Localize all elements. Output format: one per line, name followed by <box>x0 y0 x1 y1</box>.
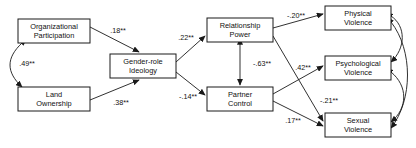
path-diagram-canvas: Organizational Participation Land Owners… <box>0 0 416 148</box>
node-label-partner-control-line1: Partner <box>228 90 253 99</box>
coefficient-relpower-to-physical: -.20** <box>287 11 305 20</box>
node-label-partner-control-line2: Control <box>228 99 252 108</box>
coefficient-partnerctrl-to-sexual: .17** <box>285 116 301 125</box>
node-label-relationship-power-line1: Relationship <box>220 21 261 30</box>
node-organizational-participation: Organizational Participation <box>18 19 90 43</box>
coefficient-partnerctrl-to-psychological: .42** <box>295 63 311 72</box>
arrow-relpower-to-sexual <box>273 36 323 121</box>
node-gender-role-ideology: Gender-role Ideology <box>110 54 176 78</box>
node-label-organizational-participation-line1: Organizational <box>30 22 78 31</box>
coefficient-relpower-to-sexual: -.21** <box>320 96 338 105</box>
node-label-physical-violence-line1: Physical <box>344 9 372 18</box>
node-label-relationship-power-line2: Power <box>230 30 251 39</box>
node-physical-violence: Physical Violence <box>325 6 391 30</box>
node-label-sexual-violence-line1: Sexual <box>347 116 370 125</box>
node-sexual-violence: Sexual Violence <box>325 113 391 137</box>
node-label-psychological-violence-line2: Violence <box>344 68 372 77</box>
node-label-psychological-violence-line1: Psychological <box>335 59 381 68</box>
node-label-land-ownership-line1: Land <box>46 90 62 99</box>
coefficient-orgpart-land-correlation: .49** <box>19 59 35 68</box>
node-label-organizational-participation-line2: Participation <box>34 31 75 40</box>
node-label-gender-role-ideology-line2: Ideology <box>129 66 157 75</box>
node-partner-control: Partner Control <box>207 87 273 111</box>
node-label-land-ownership-line2: Ownership <box>36 99 71 108</box>
coefficient-relpower-partnerctrl-correlation: -.63** <box>253 59 271 68</box>
node-relationship-power: Relationship Power <box>207 18 273 42</box>
coefficient-land-to-gri: .38** <box>113 98 129 107</box>
node-label-physical-violence-line2: Violence <box>344 18 372 27</box>
node-psychological-violence: Psychological Violence <box>325 56 391 80</box>
node-land-ownership: Land Ownership <box>18 87 90 111</box>
path-diagram: Organizational Participation Land Owners… <box>0 0 416 148</box>
node-label-gender-role-ideology-line1: Gender-role <box>123 57 162 66</box>
outcome-correlation-curves <box>391 16 408 128</box>
arrow-psychological-sexual-correlation <box>391 72 404 122</box>
coefficient-gri-to-relpower: .22** <box>178 33 194 42</box>
node-label-sexual-violence-line2: Violence <box>344 125 372 134</box>
coefficient-gri-to-partnerctrl: -.14** <box>179 92 197 101</box>
coefficient-orgpart-to-gri: .18** <box>110 26 126 35</box>
